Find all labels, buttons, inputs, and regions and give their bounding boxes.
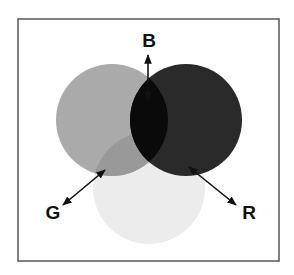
color-venn-diagram: B G R — [0, 0, 294, 275]
label-g: G — [46, 202, 61, 223]
label-r: R — [242, 202, 256, 223]
label-b: B — [142, 30, 156, 51]
